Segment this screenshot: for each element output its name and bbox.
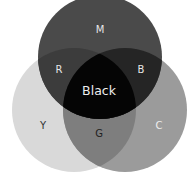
label-m: M xyxy=(96,24,105,35)
label-b: B xyxy=(138,64,145,75)
label-c: C xyxy=(156,120,163,131)
label-g: G xyxy=(95,128,103,139)
label-r: R xyxy=(56,64,63,75)
label-black: Black xyxy=(82,83,117,98)
label-y: Y xyxy=(39,120,47,131)
cmyk-venn-diagram: M R B Black Y G C xyxy=(0,0,192,184)
